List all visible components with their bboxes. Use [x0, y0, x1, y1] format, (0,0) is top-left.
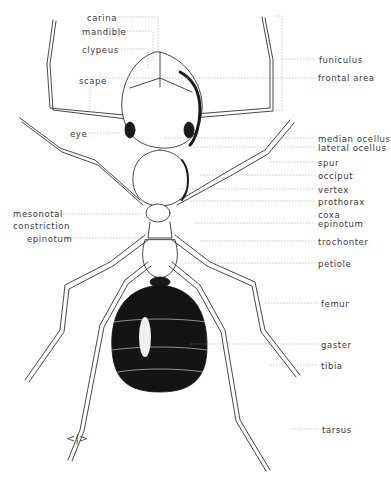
label-mandible: mandible [82, 28, 126, 37]
label-prothorax: prothorax [318, 198, 365, 207]
signature-mark: <|> [66, 432, 88, 445]
label-frontal-area: frontal area [318, 74, 375, 83]
label-eye: eye [70, 130, 87, 139]
label-carina: carina [87, 14, 117, 23]
thorax [133, 150, 188, 278]
label-vertex: vertex [318, 186, 349, 195]
label-epinotum: epinotum [27, 235, 72, 244]
label-spur: spur [318, 159, 339, 168]
label-funiculus: funiculus [319, 56, 363, 65]
label-petiole: petiole [318, 260, 351, 269]
gaster [112, 285, 207, 392]
left-eye [125, 122, 135, 138]
label-mesonotal: mesonotal [13, 210, 63, 219]
label-trochonter: trochonter [318, 238, 369, 247]
label-clypeus: clypeus [82, 46, 119, 55]
label-tarsus: tarsus [322, 426, 352, 435]
label-occiput: occiput [318, 172, 353, 181]
head [122, 52, 202, 148]
label-constriction: constriction [13, 222, 70, 231]
right-eye [184, 122, 194, 138]
label-tibia: tibia [321, 362, 343, 371]
label-femur: femur [321, 300, 349, 309]
label-scape: scape [79, 77, 107, 86]
label-lateral-ocellus: lateral ocellus [318, 144, 387, 153]
label-epinotum: epinotum [318, 220, 363, 229]
label-gaster: gaster [321, 341, 352, 350]
